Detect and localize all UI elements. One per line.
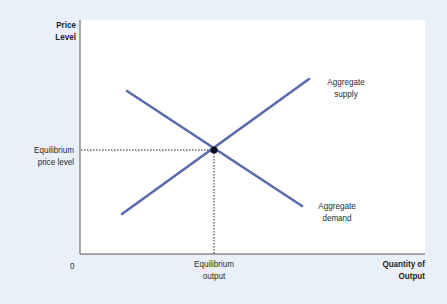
y-axis-title: Price Level	[28, 19, 76, 43]
eq-output-line1: Equilibrium	[184, 258, 244, 270]
supply-label-line1: Aggregate	[320, 76, 373, 88]
demand-label-line2: demand	[311, 212, 364, 224]
y-axis-title-line1: Price	[28, 19, 76, 31]
x-axis-title-line1: Quantity of	[370, 258, 425, 270]
equilibrium-point	[210, 146, 217, 153]
eq-price-line2: price level	[15, 156, 75, 168]
eq-output-line2: output	[184, 270, 244, 282]
x-axis-title-line2: Output	[370, 270, 425, 282]
eq-price-line1: Equilibrium	[15, 144, 75, 156]
supply-label-line2: supply	[320, 88, 373, 100]
equilibrium-price-label: Equilibrium price level	[15, 144, 75, 168]
aggregate-demand-label: Aggregate demand	[311, 200, 364, 224]
origin-label: 0	[70, 260, 75, 272]
demand-label-line1: Aggregate	[311, 200, 364, 212]
equilibrium-output-label: Equilibrium output	[184, 258, 244, 282]
aggregate-supply-curve	[122, 79, 309, 214]
y-axis-title-line2: Level	[28, 31, 76, 43]
x-axis-title: Quantity of Output	[370, 258, 425, 282]
aggregate-supply-label: Aggregate supply	[320, 76, 373, 100]
